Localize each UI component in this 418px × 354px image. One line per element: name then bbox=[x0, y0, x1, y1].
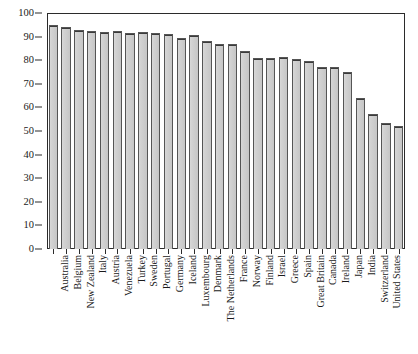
x-axis-tick-mark bbox=[258, 249, 259, 254]
x-axis-tick-mark bbox=[181, 249, 182, 254]
x-axis-tick-label: Belgium bbox=[70, 255, 80, 289]
x-axis-tick-mark bbox=[220, 249, 221, 254]
y-axis-tick-label: 100 bbox=[18, 8, 34, 19]
y-axis-tick-label: 50 bbox=[24, 126, 35, 137]
x-axis-tick-label: Austria bbox=[108, 255, 118, 284]
y-axis-tick-label: 0 bbox=[29, 244, 34, 255]
x-axis-tick-mark bbox=[53, 249, 54, 254]
x-axis-tick-label: India bbox=[364, 255, 374, 276]
x-axis-tick-label: Switzerland bbox=[377, 255, 387, 303]
x-axis-tick-label: Great Britain bbox=[313, 255, 323, 307]
x-axis-tick-label: Greece bbox=[287, 255, 297, 283]
y-axis-tick-label: 70 bbox=[24, 79, 35, 90]
x-axis-tick-mark bbox=[66, 249, 67, 254]
bar bbox=[330, 67, 339, 249]
bar bbox=[279, 57, 288, 249]
bar bbox=[49, 25, 58, 249]
x-axis-tick-label: Iceland bbox=[185, 255, 195, 284]
x-axis-tick-label: Luxembourg bbox=[198, 255, 208, 306]
x-axis-tick-label: Ireland bbox=[338, 255, 348, 283]
x-axis-tick-label: Sweden bbox=[146, 255, 156, 287]
y-axis-tick-label: 90 bbox=[24, 31, 35, 42]
x-axis-tick-mark bbox=[245, 249, 246, 254]
y-axis-tick-mark bbox=[35, 131, 42, 132]
x-axis-tick-mark bbox=[284, 249, 285, 254]
x-axis-tick-mark bbox=[373, 249, 374, 254]
x-axis-tick-label: France bbox=[236, 255, 246, 282]
x-axis-tick-mark bbox=[130, 249, 131, 254]
x-axis-tick-mark bbox=[168, 249, 169, 254]
bar bbox=[164, 34, 173, 249]
x-axis-tick-mark bbox=[117, 249, 118, 254]
x-axis-tick-mark bbox=[194, 249, 195, 254]
bar bbox=[113, 31, 122, 249]
y-axis-tick-label: 60 bbox=[24, 102, 35, 113]
x-axis-tick-mark bbox=[335, 249, 336, 254]
y-axis-tick-label: 20 bbox=[24, 197, 35, 208]
x-axis-tick-label: Italy bbox=[95, 255, 105, 273]
x-axis-tick-label: Australia bbox=[57, 255, 67, 292]
bar bbox=[304, 61, 313, 249]
y-axis-tick-mark bbox=[35, 60, 42, 61]
x-axis-tick-mark bbox=[296, 249, 297, 254]
x-axis-tick-label: United States bbox=[389, 255, 399, 309]
bar bbox=[177, 38, 186, 249]
bar-chart-figure: 0102030405060708090100 AustraliaBelgiumN… bbox=[0, 0, 418, 354]
y-axis: 0102030405060708090100 bbox=[0, 0, 47, 260]
y-axis-tick-mark bbox=[35, 83, 42, 84]
x-axis-tick-mark bbox=[156, 249, 157, 254]
x-axis-tick-label: Denmark bbox=[210, 255, 220, 292]
x-axis-tick-label: The Netherlands bbox=[223, 255, 233, 321]
y-axis-tick-mark bbox=[35, 178, 42, 179]
bar bbox=[61, 27, 70, 249]
x-axis-tick-mark bbox=[399, 249, 400, 254]
bar bbox=[74, 30, 83, 249]
x-axis-tick-mark bbox=[105, 249, 106, 254]
bar bbox=[343, 72, 352, 249]
x-axis-tick-label: Japan bbox=[351, 255, 361, 278]
x-axis-tick-mark bbox=[271, 249, 272, 254]
x-axis-tick-mark bbox=[207, 249, 208, 254]
x-axis-tick-mark bbox=[347, 249, 348, 254]
bar bbox=[356, 98, 365, 249]
bar bbox=[381, 123, 390, 249]
bar bbox=[215, 44, 224, 249]
x-axis-tick-mark bbox=[360, 249, 361, 254]
bar bbox=[240, 51, 249, 249]
x-axis-tick-mark bbox=[143, 249, 144, 254]
x-axis-labels: AustraliaBelgiumNew ZealandItalyAustriaV… bbox=[47, 255, 405, 354]
y-axis-tick-mark bbox=[35, 13, 42, 14]
bar bbox=[202, 41, 211, 249]
x-axis-tick-mark bbox=[232, 249, 233, 254]
bars-container bbox=[47, 13, 405, 249]
chart-title bbox=[0, 0, 418, 6]
x-axis-tick-mark bbox=[92, 249, 93, 254]
x-axis-tick-label: Israel bbox=[274, 255, 284, 277]
bar bbox=[125, 33, 134, 249]
x-axis-tick-label: Norway bbox=[249, 255, 259, 287]
y-axis-tick-label: 80 bbox=[24, 55, 35, 66]
x-axis-tick-mark bbox=[386, 249, 387, 254]
y-axis-tick-label: 10 bbox=[24, 220, 35, 231]
x-axis-tick-mark bbox=[79, 249, 80, 254]
y-axis-tick-mark bbox=[35, 249, 42, 250]
x-axis-tick-label: Turkey bbox=[134, 255, 144, 284]
bar bbox=[292, 59, 301, 249]
x-axis-tick-label: Portugal bbox=[159, 255, 169, 289]
x-axis-tick-label: New Zealand bbox=[83, 255, 93, 309]
bar bbox=[138, 32, 147, 249]
bar bbox=[87, 31, 96, 249]
x-axis-tick-label: Spain bbox=[300, 255, 310, 278]
y-axis-tick-mark bbox=[35, 154, 42, 155]
y-axis-tick-mark bbox=[35, 36, 42, 37]
x-axis-tick-label: Colombia bbox=[402, 255, 405, 294]
bar bbox=[189, 35, 198, 249]
bar bbox=[253, 58, 262, 249]
y-axis-tick-label: 30 bbox=[24, 173, 35, 184]
bar bbox=[100, 32, 109, 249]
y-axis-tick-mark bbox=[35, 107, 42, 108]
bar bbox=[151, 33, 160, 249]
x-axis-tick-mark bbox=[322, 249, 323, 254]
y-axis-tick-label: 40 bbox=[24, 149, 35, 160]
bar bbox=[368, 114, 377, 249]
